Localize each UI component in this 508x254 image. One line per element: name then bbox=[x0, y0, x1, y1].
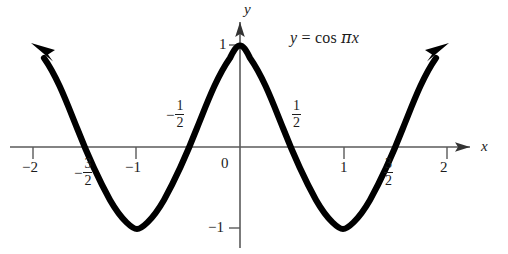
fraction-3-over-2-positive: 3 2 bbox=[384, 157, 393, 189]
fraction-denominator: 2 bbox=[175, 116, 184, 130]
fraction-denominator: 2 bbox=[384, 174, 393, 188]
fraction-numerator: 3 bbox=[384, 157, 393, 171]
y-axis bbox=[235, 22, 245, 248]
fraction-numerator: 3 bbox=[83, 157, 92, 171]
y-axis-label: y bbox=[244, 2, 251, 17]
fraction-numerator: 1 bbox=[292, 99, 301, 113]
y-axis-ticks bbox=[229, 45, 240, 228]
minus-sign: − bbox=[74, 166, 82, 181]
y-tick-label-1: 1 bbox=[219, 37, 227, 52]
fraction-1-over-2: 1 2 bbox=[175, 99, 184, 131]
y-tick-label-neg-1: −1 bbox=[208, 220, 224, 235]
plot-canvas bbox=[0, 0, 508, 254]
zero-crossing-label-1-2: 1 2 bbox=[292, 100, 301, 132]
x-tick-label-2: 2 bbox=[440, 160, 448, 175]
equation-pi-symbol: π bbox=[341, 28, 352, 47]
fraction-denominator: 2 bbox=[292, 116, 301, 130]
x-tick-label-1: 1 bbox=[340, 160, 348, 175]
cosine-graph-figure: y x 1 −1 0 −2 − 3 2 −1 1 3 2 2 − 1 bbox=[0, 0, 508, 254]
x-tick-label-0: 0 bbox=[221, 156, 229, 171]
fraction-numerator: 1 bbox=[175, 99, 184, 113]
zero-crossing-label-neg-1-2: − 1 2 bbox=[166, 100, 184, 132]
fraction-1-over-2-positive: 1 2 bbox=[292, 99, 301, 131]
fraction-denominator: 2 bbox=[83, 174, 92, 188]
fraction-3-over-2: 3 2 bbox=[83, 157, 92, 189]
equation-variable-x: x bbox=[352, 29, 359, 46]
x-tick-label-neg-2: −2 bbox=[22, 160, 38, 175]
minus-sign: − bbox=[166, 108, 174, 123]
equation-equals-sign: = bbox=[302, 29, 311, 46]
equation-cos: cos bbox=[315, 29, 337, 46]
x-tick-label-neg-3-2: − 3 2 bbox=[74, 158, 92, 190]
x-tick-label-3-2: 3 2 bbox=[384, 158, 393, 190]
x-axis-label: x bbox=[481, 139, 488, 154]
equation-annotation: y = cos πx bbox=[290, 30, 359, 46]
x-tick-label-neg-1: −1 bbox=[125, 160, 141, 175]
equation-variable-y: y bbox=[290, 29, 297, 46]
